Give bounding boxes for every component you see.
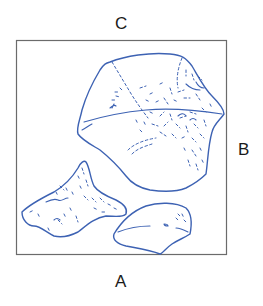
frame	[17, 41, 227, 255]
small-fragment	[114, 203, 192, 254]
diagram-canvas	[0, 0, 263, 306]
large-fragment	[77, 53, 224, 191]
triangular-fragment	[22, 161, 127, 236]
